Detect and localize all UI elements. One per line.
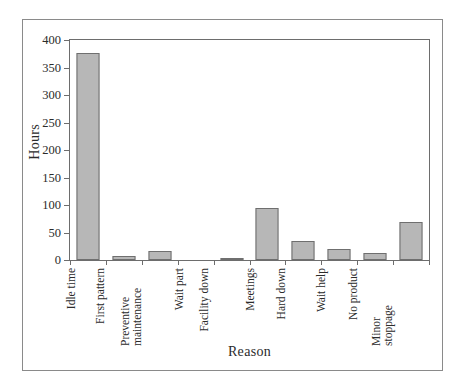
- x-axis-tick-mark: [142, 260, 143, 265]
- x-axis-tick-label: Wait part: [174, 268, 186, 310]
- bar-slot: [393, 40, 429, 260]
- bar-slot: [142, 40, 178, 260]
- bar-series: [70, 40, 429, 260]
- x-axis-tick-label: Meetings: [245, 268, 257, 311]
- x-axis-tick-mark: [429, 260, 430, 265]
- bar[interactable]: [256, 208, 279, 260]
- bar[interactable]: [400, 222, 423, 261]
- x-axis-tick-mark: [250, 260, 251, 265]
- y-axis-tick-label: 100: [42, 199, 61, 212]
- x-axis-tick-label: Minorstoppage: [371, 268, 394, 346]
- x-axis-tick-label: No product: [348, 268, 360, 320]
- x-axis-tick-label: Preventivemaintenance: [120, 268, 143, 346]
- bar[interactable]: [112, 256, 135, 260]
- bar-slot: [214, 40, 250, 260]
- y-axis-tick-label: 250: [42, 116, 61, 129]
- x-axis-tick-label: Hard down: [277, 268, 289, 319]
- x-axis-tick-mark: [214, 260, 215, 265]
- bar[interactable]: [364, 253, 387, 260]
- x-axis-tick-label-slot: Preventivemaintenance: [141, 268, 177, 346]
- bar-slot: [285, 40, 321, 260]
- x-axis-tick-mark: [106, 260, 107, 265]
- y-axis-tick-label: 400: [42, 34, 61, 47]
- bar[interactable]: [148, 251, 171, 260]
- x-axis-tick-labels: Idle timeFirst patternPreventivemaintena…: [69, 268, 430, 346]
- bar-slot: [357, 40, 393, 260]
- x-axis-tick-label: Idle time: [66, 268, 78, 309]
- x-axis-tick-label: First pattern: [95, 268, 107, 324]
- y-axis-tick-label: 350: [42, 61, 61, 74]
- bar-slot: [106, 40, 142, 260]
- bar[interactable]: [292, 241, 315, 260]
- x-axis-tick-mark: [321, 260, 322, 265]
- y-axis-tick-label: 0: [55, 254, 61, 267]
- x-axis-title: Reason: [69, 344, 430, 360]
- x-axis-tick-mark: [285, 260, 286, 265]
- bar-slot: [70, 40, 106, 260]
- pareto-bar-chart-figure: Hours 050100150200250300350400 Idle time…: [0, 0, 466, 390]
- bar[interactable]: [76, 53, 99, 260]
- y-axis-tick-label: 50: [49, 226, 62, 239]
- bar[interactable]: [220, 258, 243, 260]
- bar-slot: [178, 40, 214, 260]
- bar[interactable]: [328, 249, 351, 260]
- x-axis-tick-mark: [178, 260, 179, 265]
- y-axis-tick-label: 150: [42, 171, 61, 184]
- y-axis-title: Hours: [27, 124, 43, 160]
- x-axis-tick-label-slot: Minorstoppage: [392, 268, 428, 346]
- x-axis-tick-mark: [70, 260, 71, 265]
- bar-slot: [321, 40, 357, 260]
- x-axis-tick-mark: [357, 260, 358, 265]
- plot-area: 050100150200250300350400: [69, 39, 430, 261]
- x-axis-tick-label: Wait help: [316, 268, 328, 312]
- x-axis-tick-label: Facility down: [199, 268, 211, 332]
- bar-slot: [250, 40, 286, 260]
- y-axis-tick-label: 300: [42, 89, 61, 102]
- y-axis-tick-label: 200: [42, 144, 61, 157]
- x-axis-tick-mark: [393, 260, 394, 265]
